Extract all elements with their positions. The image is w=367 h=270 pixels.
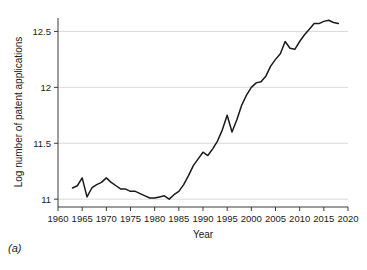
x-tick-label: 1970 [96, 213, 117, 224]
plot-background [58, 18, 348, 207]
x-tick-label: 2010 [289, 213, 310, 224]
x-tick-label: 1975 [120, 213, 141, 224]
figure-panel: 1111.51212.5 196019651970197519801985199… [0, 0, 367, 270]
x-tick-label: 2005 [265, 213, 286, 224]
x-tick-label: 2015 [313, 213, 334, 224]
x-axis-title: Year [193, 229, 214, 240]
y-tick-label: 11 [41, 194, 51, 205]
y-axis-ticks: 1111.51212.5 [33, 26, 59, 205]
x-tick-label: 1965 [72, 213, 93, 224]
x-tick-label: 2020 [337, 213, 358, 224]
x-tick-label: 1990 [192, 213, 213, 224]
x-tick-label: 1980 [144, 213, 165, 224]
x-tick-label: 2000 [241, 213, 262, 224]
figure-caption: (a) [8, 242, 21, 254]
x-tick-label: 1960 [47, 213, 68, 224]
y-tick-label: 12.5 [33, 26, 52, 37]
x-tick-label: 1995 [217, 213, 238, 224]
y-tick-label: 12 [40, 82, 51, 93]
y-axis-title: Log number of patent applications [13, 37, 24, 188]
x-axis-ticks: 1960196519701975198019851990199520002005… [47, 207, 358, 224]
x-tick-label: 1985 [168, 213, 189, 224]
y-tick-label: 11.5 [33, 138, 51, 149]
patent-applications-line-chart: 1111.51212.5 196019651970197519801985199… [0, 0, 367, 270]
